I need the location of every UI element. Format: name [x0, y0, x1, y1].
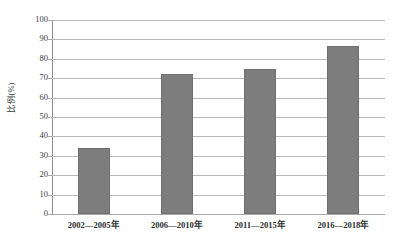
bar: [244, 69, 276, 215]
y-axis-tick-labels: 0102030405060708090100: [0, 20, 48, 214]
y-tick-label: 20: [4, 170, 48, 179]
gridline: [52, 39, 385, 40]
bar: [327, 46, 359, 214]
gridline: [52, 20, 385, 21]
x-tick-label: 2011—2015年: [219, 219, 302, 231]
y-tick-label: 70: [4, 73, 48, 82]
bar: [78, 148, 110, 214]
y-tick-label: 30: [4, 151, 48, 160]
bar-chart: 比例(%) 0102030405060708090100 2002—2005年2…: [0, 0, 397, 246]
y-tick-label: 100: [4, 15, 48, 24]
gridline: [52, 214, 385, 215]
y-tick-label: 60: [4, 93, 48, 102]
y-tick-label: 50: [4, 112, 48, 121]
y-tick-label: 0: [4, 209, 48, 218]
x-tick-label: 2016—2018年: [302, 219, 385, 231]
plot-area: [52, 20, 385, 214]
y-tick-label: 80: [4, 54, 48, 63]
bar: [161, 74, 193, 214]
x-tick-label: 2006—2010年: [135, 219, 218, 231]
y-tick-label: 40: [4, 131, 48, 140]
y-tick-label: 90: [4, 34, 48, 43]
x-tick-label: 2002—2005年: [52, 219, 135, 231]
y-tick-label: 10: [4, 190, 48, 199]
x-axis-tick-labels: 2002—2005年2006—2010年2011—2015年2016—2018年: [52, 219, 385, 239]
